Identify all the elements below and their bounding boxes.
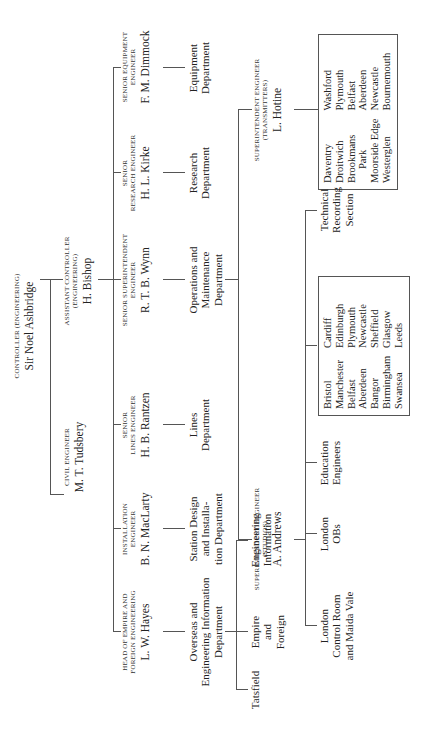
dept-line: Equipment: [187, 20, 199, 116]
connector: [113, 67, 121, 68]
operations-spine: [238, 109, 239, 540]
rantzen-node: Senior Lines Engineer H. B. Rantzen: [122, 375, 152, 475]
station: Bournemouth: [381, 53, 393, 111]
connector: [113, 631, 121, 632]
connector: [305, 533, 317, 534]
civil-engineer-node: Civil Engineer M. T. Tudsbery: [64, 402, 86, 512]
station: Glasgow: [381, 304, 393, 348]
dimmock-title-2: Engineer: [130, 6, 138, 128]
leaf-line: OBs: [330, 504, 342, 564]
dept-line: Overseas and: [187, 564, 199, 700]
station: Bangor: [369, 356, 381, 409]
connector: [113, 528, 121, 529]
hotine-name: L. Hotine: [271, 40, 284, 180]
station: Belfast: [346, 356, 358, 409]
assistant-title-2: (Engineering): [72, 226, 80, 336]
studios-spine: [305, 210, 306, 626]
connector: [225, 279, 238, 280]
station: Washford: [322, 53, 334, 111]
lines-department: Lines Department: [187, 377, 212, 473]
leaf-line: and: [261, 604, 273, 660]
engineering-information: Engineering Information: [249, 502, 274, 578]
connector: [163, 424, 185, 425]
connector: [163, 631, 185, 632]
education-engineers: Education Engineers: [318, 428, 343, 498]
hayes-title-2: Foreign Engineering: [130, 564, 138, 700]
london-obs: London OBs: [318, 504, 343, 564]
connector: [163, 528, 185, 529]
kirke-name: H. L. Kirke: [139, 118, 152, 228]
studios-box: Bristol Manchester Belfast Aberdeen Bang…: [318, 276, 410, 416]
leaf-line: Technical: [318, 172, 330, 248]
dept-line: Department: [199, 20, 211, 116]
dept-line: Department: [212, 224, 224, 336]
leaf-line: Recording: [330, 172, 342, 248]
assistant-name: H. Bishop: [81, 226, 94, 336]
equipment-department: Equipment Department: [187, 20, 212, 116]
rantzen-name: H. B. Rantzen: [139, 375, 152, 475]
leaf-line: London: [318, 504, 330, 564]
dept-line: Research: [187, 125, 199, 221]
connector: [50, 279, 51, 495]
london-control-room: London Control Room and Maida Vale: [318, 578, 355, 674]
connector: [305, 462, 317, 463]
connector: [40, 279, 63, 280]
connector: [294, 539, 305, 540]
station: Cardiff: [322, 304, 334, 348]
hotine-node: Superintendent Engineer (Transmitters) L…: [254, 40, 284, 180]
leaf-line: London: [318, 578, 330, 674]
research-department: Research Department: [187, 125, 212, 221]
station: Aberdeen: [357, 53, 369, 111]
station: Newcastle: [357, 304, 369, 348]
dept-line: Department: [199, 125, 211, 221]
assistant-controller-node: Assistant Controller (Engineering) H. Bi…: [64, 226, 94, 336]
leaf-line: Engineers: [330, 428, 342, 498]
station: Aberdeen: [357, 356, 369, 409]
connector: [113, 424, 121, 425]
dept-line: Engineering Information: [199, 564, 211, 700]
hayes-spine: [236, 540, 237, 690]
dept-line: Lines: [187, 377, 199, 473]
station: Park: [357, 119, 369, 183]
leaf-line: Tatsfield: [249, 660, 261, 720]
leaf-line: Education: [318, 428, 330, 498]
connector: [238, 109, 252, 110]
dept-line: Department: [212, 564, 224, 700]
station: Leeds: [393, 304, 405, 348]
kirke-title-2: Research Engineer: [130, 118, 138, 228]
operations-maintenance-department: Operations and Maintenance Department: [187, 224, 224, 336]
connector: [163, 279, 185, 280]
station: Newcastle: [369, 53, 381, 111]
studios-col-1: Bristol Manchester Belfast Aberdeen Bang…: [322, 356, 406, 409]
connector: [236, 689, 248, 690]
controller-node: Controller (Engineering) Sir Noel Ashbri…: [14, 256, 36, 396]
wynn-name: R. T. B. Wynn: [139, 214, 152, 346]
station: Sheffield: [369, 304, 381, 348]
connector: [236, 631, 248, 632]
tatsfield: Tatsfield: [249, 660, 261, 720]
overseas-engineering-information-department: Overseas and Engineering Information Dep…: [187, 564, 224, 700]
connector: [98, 279, 113, 280]
leaf-line: Empire: [249, 604, 261, 660]
connector: [294, 109, 318, 110]
connector: [305, 210, 317, 211]
station: Swansea: [393, 356, 405, 409]
rantzen-title-2: Lines Engineer: [130, 375, 138, 475]
transmitters-col-2: Washford Plymouth Belfast Aberdeen Newca…: [322, 53, 394, 111]
org-chart: Controller (Engineering) Sir Noel Ashbri…: [0, 0, 434, 756]
connector: [113, 279, 121, 280]
studios-col-2: Cardiff Edinburgh Plymouth Newcastle She…: [322, 304, 406, 348]
kirke-node: Senior Research Engineer H. L. Kirke: [122, 118, 152, 228]
leaf-line: Section: [343, 172, 355, 248]
station: Plymouth: [334, 53, 346, 111]
civil-title: Civil Engineer: [64, 402, 72, 512]
station: Manchester: [334, 356, 346, 409]
dept-line: Department: [199, 377, 211, 473]
leaf-line: Foreign: [274, 604, 286, 660]
station: Moorside Edge: [369, 119, 381, 183]
empire-and-foreign: Empire and Foreign: [249, 604, 286, 660]
connector: [305, 345, 317, 346]
dimmock-node: Senior Equipment Engineer F. M. Dimmock: [122, 6, 152, 128]
leaf-line: Control Room: [330, 578, 342, 674]
station: Plymouth: [346, 304, 358, 348]
